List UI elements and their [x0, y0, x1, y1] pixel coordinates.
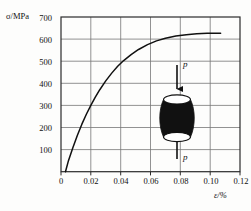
plot-canvas	[0, 0, 251, 211]
specimen-top-face	[164, 95, 191, 104]
stress-strain-figure: σ/MPa ε/% 700 600 500 400 300 200 100 0 …	[0, 0, 251, 211]
stress-strain-curve	[65, 33, 220, 171]
specimen-bottom-face	[164, 132, 191, 141]
specimen-illustration	[160, 65, 195, 159]
grid-lines	[61, 17, 240, 172]
